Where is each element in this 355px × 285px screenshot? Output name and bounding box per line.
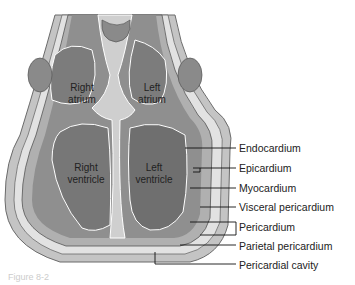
label-endocardium: Endocardium [239, 142, 301, 154]
chamber-label-left-atrium: Left atrium [132, 82, 172, 106]
label-pericardium: Pericardium [239, 221, 295, 233]
label-epicardium: Epicardium [239, 162, 292, 174]
label-pericardial-cavity: Pericardial cavity [239, 259, 318, 271]
label-visceral-pericardium: Visceral pericardium [239, 201, 334, 213]
label-parietal-pericardium: Parietal pericardium [239, 240, 332, 252]
chamber-label-right-ventricle: Right ventricle [60, 162, 112, 186]
label-myocardium: Myocardium [239, 182, 296, 194]
chamber-label-right-atrium: Right atrium [62, 82, 102, 106]
chamber-label-left-ventricle: Left ventricle [128, 162, 180, 186]
figure-caption: Figure 8-2 [8, 272, 49, 282]
